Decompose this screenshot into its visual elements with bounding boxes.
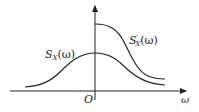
curve-sx-prime <box>95 24 165 79</box>
curve-sx-label: SX(ω) <box>45 48 75 62</box>
curve-sx-prime-label: S′X(ω) <box>129 34 158 48</box>
diagram-canvas: SX(ω) S′X(ω) O ω <box>0 0 199 112</box>
spectral-density-diagram: SX(ω) S′X(ω) O ω <box>0 0 199 112</box>
origin-label: O <box>84 93 93 106</box>
x-axis-label: ω <box>181 94 189 105</box>
